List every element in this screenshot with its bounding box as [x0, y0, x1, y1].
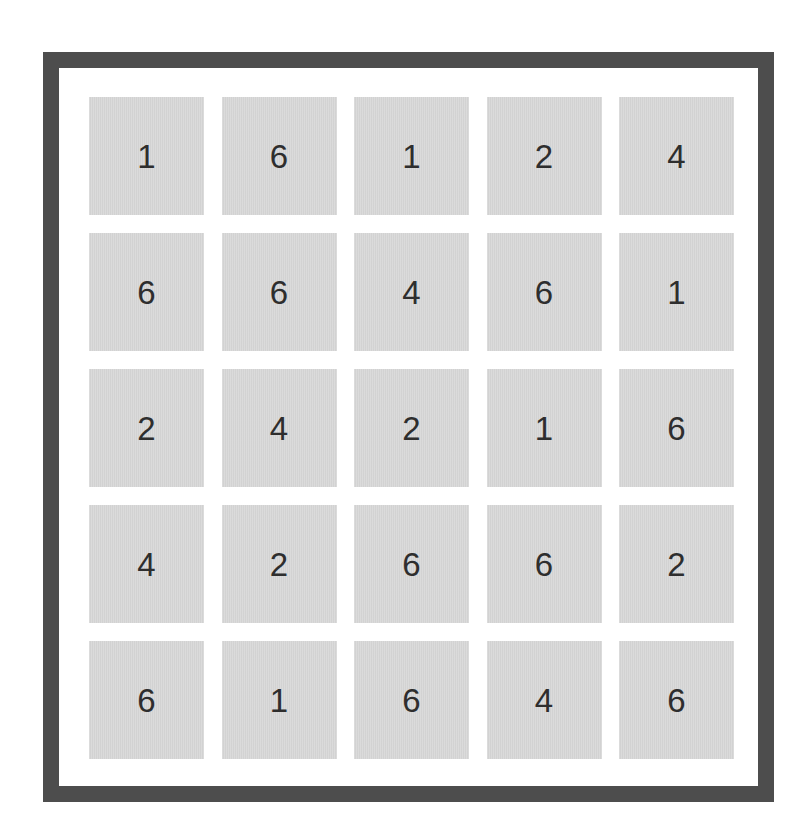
tile-value: 2 — [667, 548, 685, 581]
tile-value: 6 — [402, 548, 420, 581]
tile-r2-c5[interactable]: 1 — [619, 233, 734, 351]
tile-value: 1 — [535, 412, 553, 445]
tile-value: 2 — [270, 548, 288, 581]
tile-value: 4 — [270, 412, 288, 445]
tile-r3-c3[interactable]: 2 — [354, 369, 469, 487]
tile-r1-c3[interactable]: 1 — [354, 97, 469, 215]
tile-r3-c1[interactable]: 2 — [89, 369, 204, 487]
tile-value: 2 — [535, 140, 553, 173]
tile-r1-c1[interactable]: 1 — [89, 97, 204, 215]
tile-r4-c5[interactable]: 2 — [619, 505, 734, 623]
tile-value: 1 — [667, 276, 685, 309]
tile-r2-c4[interactable]: 6 — [487, 233, 602, 351]
tile-value: 4 — [137, 548, 155, 581]
tile-r4-c4[interactable]: 6 — [487, 505, 602, 623]
tile-r2-c1[interactable]: 6 — [89, 233, 204, 351]
tile-value: 2 — [137, 412, 155, 445]
tile-value: 1 — [137, 140, 155, 173]
tile-r5-c3[interactable]: 6 — [354, 641, 469, 759]
tile-r4-c3[interactable]: 6 — [354, 505, 469, 623]
tile-r4-c1[interactable]: 4 — [89, 505, 204, 623]
tile-r2-c3[interactable]: 4 — [354, 233, 469, 351]
tile-r4-c2[interactable]: 2 — [222, 505, 337, 623]
tile-value: 6 — [137, 276, 155, 309]
tile-value: 6 — [137, 684, 155, 717]
tile-value: 6 — [535, 276, 553, 309]
tile-value: 6 — [667, 412, 685, 445]
tile-value: 2 — [402, 412, 420, 445]
tile-r3-c4[interactable]: 1 — [487, 369, 602, 487]
tile-r1-c4[interactable]: 2 — [487, 97, 602, 215]
tile-value: 6 — [535, 548, 553, 581]
tile-value: 1 — [270, 684, 288, 717]
tile-value: 6 — [270, 276, 288, 309]
game-board-frame: 1 6 1 2 4 6 6 4 6 1 2 4 2 1 6 4 2 6 6 2 … — [43, 52, 774, 802]
tile-value: 6 — [402, 684, 420, 717]
tile-value: 4 — [535, 684, 553, 717]
tile-value: 4 — [667, 140, 685, 173]
tile-value: 6 — [667, 684, 685, 717]
tile-r5-c2[interactable]: 1 — [222, 641, 337, 759]
tile-grid: 1 6 1 2 4 6 6 4 6 1 2 4 2 1 6 4 2 6 6 2 … — [89, 97, 734, 759]
tile-r3-c5[interactable]: 6 — [619, 369, 734, 487]
tile-r2-c2[interactable]: 6 — [222, 233, 337, 351]
tile-value: 6 — [270, 140, 288, 173]
tile-r3-c2[interactable]: 4 — [222, 369, 337, 487]
tile-r5-c5[interactable]: 6 — [619, 641, 734, 759]
tile-r1-c2[interactable]: 6 — [222, 97, 337, 215]
tile-r5-c4[interactable]: 4 — [487, 641, 602, 759]
tile-value: 4 — [402, 276, 420, 309]
tile-r5-c1[interactable]: 6 — [89, 641, 204, 759]
tile-value: 1 — [402, 140, 420, 173]
tile-r1-c5[interactable]: 4 — [619, 97, 734, 215]
